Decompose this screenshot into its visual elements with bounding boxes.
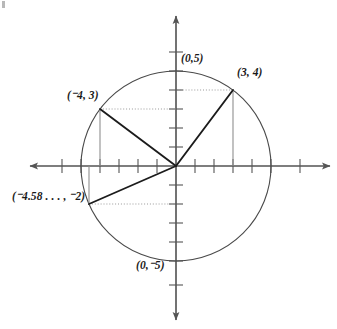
diagram-canvas <box>0 0 337 329</box>
drop-lines <box>89 90 233 204</box>
segment-origin-to-3-4 <box>176 90 233 166</box>
radius-segments <box>89 90 233 204</box>
segment-origin-to-neg4-58-neg2 <box>89 166 176 204</box>
coordinate-plane-figure: (0,5) (3, 4) (⁻4, 3) (⁻4.58 . . . , ⁻2) … <box>0 0 337 329</box>
label-point-0-5: (0,5) <box>181 52 204 64</box>
label-point-3-4: (3, 4) <box>237 66 263 78</box>
label-point-neg4-58-neg2: (⁻4.58 . . . , ⁻2) <box>12 189 85 203</box>
label-point-0-neg5: (0,⁻5) <box>136 258 165 272</box>
segment-origin-to-neg4-3 <box>100 109 176 166</box>
guide-lines <box>89 90 233 204</box>
label-point-neg4-3: (⁻4, 3) <box>67 88 99 102</box>
